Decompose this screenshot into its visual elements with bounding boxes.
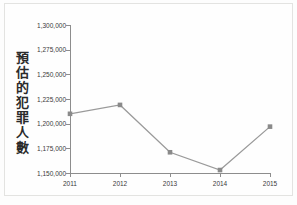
series-line	[70, 105, 270, 170]
data-point-marker	[218, 168, 223, 173]
data-point-marker	[118, 103, 123, 108]
series-layer	[0, 0, 297, 205]
chart-screenshot: 預估的犯罪人數 1,300,000 1,275,000 1,250,000 1,…	[0, 0, 297, 205]
data-point-marker	[68, 112, 73, 117]
data-point-marker	[268, 124, 273, 129]
data-point-marker	[168, 150, 173, 155]
line-chart: 預估的犯罪人數 1,300,000 1,275,000 1,250,000 1,…	[0, 0, 297, 205]
series-markers	[68, 103, 273, 173]
